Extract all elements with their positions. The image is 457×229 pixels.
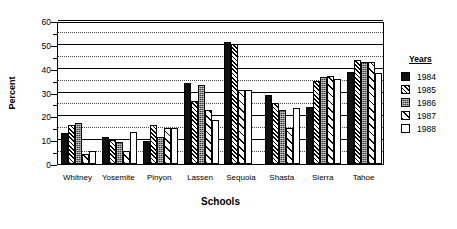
bar-tahoe-1986 — [361, 62, 368, 164]
bar-lassen-1988 — [212, 120, 219, 164]
y-axis-title: Percent — [7, 63, 17, 123]
bar-group — [184, 23, 219, 164]
legend-label: 1986 — [417, 98, 436, 108]
legend-items: 19841985198619871988 — [401, 70, 457, 135]
bar-group — [61, 23, 96, 164]
gridline-major — [58, 20, 383, 21]
bar-sierra-1985 — [313, 81, 320, 164]
bar-whitney-1988 — [89, 151, 96, 164]
bar-tahoe-1985 — [354, 60, 361, 164]
legend-swatch-1988 — [401, 124, 410, 133]
bar-shasta-1988 — [293, 108, 300, 164]
bar-sierra-1988 — [334, 79, 341, 164]
legend-label: 1985 — [417, 85, 436, 95]
bar-lassen-1985 — [191, 101, 198, 164]
x-tick-label: Whitney — [57, 173, 98, 182]
legend-label: 1988 — [417, 124, 436, 134]
x-tick-label: Shasta — [261, 173, 302, 182]
bar-sequoia-1988 — [245, 90, 252, 164]
bar-tahoe-1984 — [347, 72, 354, 164]
legend-label: 1984 — [417, 72, 436, 82]
bar-pinyon-1985 — [150, 125, 157, 164]
bar-whitney-1986 — [75, 123, 82, 164]
bar-whitney-1985 — [68, 125, 75, 164]
bar-pinyon-1987 — [164, 128, 171, 164]
bar-group — [102, 23, 137, 164]
bar-group — [143, 23, 178, 164]
bar-yosemite-1987 — [123, 151, 130, 164]
y-tick-label: 30 — [25, 89, 51, 99]
bar-sequoia-1985 — [231, 44, 238, 164]
legend-swatch-1986 — [401, 98, 410, 107]
bar-group — [306, 23, 341, 164]
bar-lassen-1987 — [205, 110, 212, 164]
bar-whitney-1987 — [82, 154, 89, 164]
y-tick-mark — [51, 165, 57, 166]
bar-sierra-1986 — [320, 77, 327, 164]
bar-shasta-1986 — [279, 110, 286, 164]
bar-shasta-1984 — [265, 95, 272, 164]
y-tick-label: 0 — [25, 160, 51, 170]
legend-swatch-1984 — [401, 72, 410, 81]
x-tick-label: Sierra — [302, 173, 343, 182]
bar-pinyon-1986 — [157, 137, 164, 164]
y-tick-label: 50 — [25, 41, 51, 51]
legend-item-1988[interactable]: 1988 — [401, 122, 457, 135]
bar-whitney-1984 — [61, 133, 68, 164]
x-tick-label: Sequoia — [221, 173, 262, 182]
bar-sequoia-1987 — [238, 90, 245, 164]
plot-area — [57, 22, 384, 165]
x-tick-label: Yosemite — [98, 173, 139, 182]
bar-lassen-1986 — [198, 85, 205, 164]
bar-pinyon-1988 — [171, 128, 178, 164]
y-tick-label: 20 — [25, 112, 51, 122]
bar-group — [265, 23, 300, 164]
legend-item-1985[interactable]: 1985 — [401, 83, 457, 96]
legend-item-1986[interactable]: 1986 — [401, 96, 457, 109]
legend-title: Years — [409, 54, 457, 64]
y-tick-label: 10 — [25, 136, 51, 146]
legend: Years 19841985198619871988 — [401, 54, 457, 135]
bar-sierra-1984 — [306, 107, 313, 164]
bar-lassen-1984 — [184, 83, 191, 164]
legend-swatch-1987 — [401, 111, 410, 120]
legend-item-1984[interactable]: 1984 — [401, 70, 457, 83]
x-axis-title: Schools — [57, 196, 384, 207]
legend-swatch-1985 — [401, 85, 410, 94]
bar-group — [224, 23, 252, 164]
x-tick-label: Pinyon — [139, 173, 180, 182]
bar-tahoe-1988 — [375, 73, 382, 164]
bar-sequoia-1984 — [224, 42, 231, 164]
x-tick-label: Lassen — [180, 173, 221, 182]
x-tick-label: Tahoe — [343, 173, 384, 182]
bar-sierra-1987 — [327, 76, 334, 164]
bar-yosemite-1986 — [116, 142, 123, 164]
legend-label: 1987 — [417, 111, 436, 121]
bar-yosemite-1985 — [109, 140, 116, 164]
y-tick-label: 40 — [25, 65, 51, 75]
bar-group — [347, 23, 382, 164]
bar-yosemite-1988 — [130, 132, 137, 164]
bar-pinyon-1984 — [143, 141, 150, 164]
bar-tahoe-1987 — [368, 62, 375, 164]
bar-yosemite-1984 — [102, 137, 109, 164]
legend-item-1987[interactable]: 1987 — [401, 109, 457, 122]
bar-shasta-1987 — [286, 128, 293, 164]
bar-chart: Percent 0102030405060 WhitneyYosemitePin… — [0, 0, 457, 229]
y-tick-label: 60 — [25, 17, 51, 27]
bar-shasta-1985 — [272, 103, 279, 164]
